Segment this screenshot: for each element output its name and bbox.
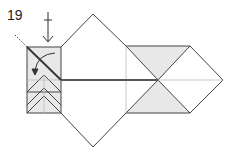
- leader-line: [15, 35, 27, 47]
- origami-diagram: [0, 0, 233, 151]
- shaded-bottom-triangle: [126, 80, 190, 113]
- push-arrow-icon: [43, 12, 53, 42]
- shaded-top-triangle: [126, 46, 190, 80]
